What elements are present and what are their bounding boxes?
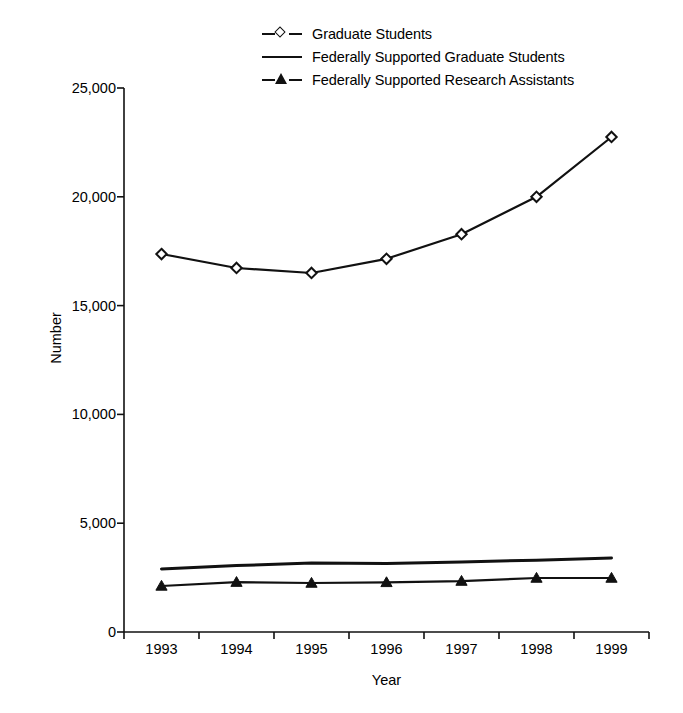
data-point-marker — [231, 263, 241, 273]
plot-area — [0, 0, 683, 713]
data-point-marker — [306, 268, 316, 278]
line-chart-figure: Graduate Students Federally Supported Gr… — [0, 0, 683, 713]
data-point-marker — [381, 254, 391, 264]
series-2 — [162, 558, 612, 569]
data-point-marker — [456, 229, 466, 239]
series-1 — [156, 132, 616, 278]
data-series-group — [156, 132, 617, 590]
data-point-marker — [156, 249, 166, 259]
series-3 — [156, 572, 617, 590]
